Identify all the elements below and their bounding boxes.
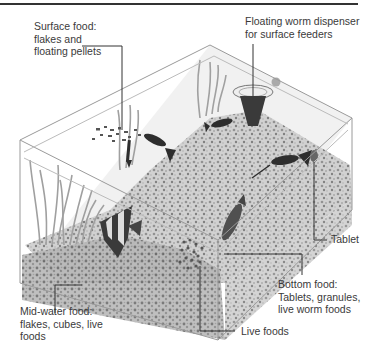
label-line: foods [20, 330, 103, 343]
surface-flakes [92, 126, 141, 142]
label-line: Tablets, granules, [278, 291, 360, 304]
label-line: flakes, cubes, live [20, 318, 103, 331]
label-line: Live foods [241, 325, 289, 338]
label-line: for surface feeders [245, 28, 359, 41]
label-line: Floating worm dispenser [245, 15, 359, 28]
label-line: live worm foods [278, 303, 360, 316]
label-tablet: Tablet [331, 233, 359, 246]
label-line: Bottom food: [278, 278, 360, 291]
label-worm-dispenser: Floating worm dispenser for surface feed… [245, 15, 359, 40]
label-line: Surface food: [34, 20, 101, 33]
label-mid-water-food: Mid-water food: flakes, cubes, live food… [20, 305, 103, 343]
label-bottom-food: Bottom food: Tablets, granules, live wor… [278, 278, 360, 316]
label-live-foods: Live foods [241, 325, 289, 338]
label-line: floating pellets [34, 45, 101, 58]
tablet-pellet [310, 150, 318, 162]
label-line: flakes and [34, 33, 101, 46]
label-line: Mid-water food: [20, 305, 103, 318]
label-line: Tablet [331, 233, 359, 246]
label-surface-food: Surface food: flakes and floating pellet… [34, 20, 101, 58]
